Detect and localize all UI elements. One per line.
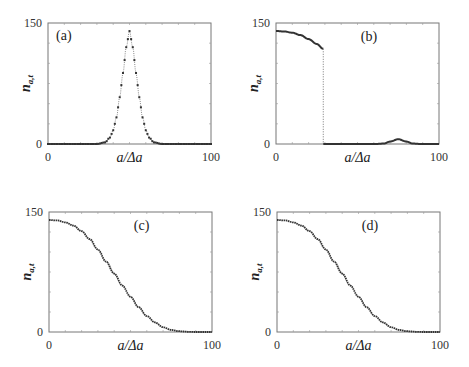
y-tick-0: 0 [36, 137, 42, 151]
data-curve [323, 139, 439, 144]
y-tick-150: 150 [25, 205, 43, 219]
axes-frame [49, 212, 212, 332]
x-axis-label: a/Δa [117, 338, 143, 353]
y-tick-0: 0 [264, 137, 270, 151]
x-tick-0: 0 [273, 150, 279, 164]
data-curve [276, 31, 323, 49]
x-tick-0: 0 [46, 338, 52, 352]
x-axis-label: a/Δa [116, 150, 142, 165]
y-tick-150: 150 [253, 205, 271, 219]
panel-b: 01500100a/Δana,t(b) [246, 16, 448, 165]
panel-label: (d) [362, 218, 379, 234]
x-tick-100: 100 [203, 338, 221, 352]
data-curve [277, 220, 440, 332]
panel-c: 01500100a/Δana,t(c) [19, 205, 221, 353]
x-tick-0: 0 [45, 150, 51, 164]
data-curve [48, 31, 211, 144]
figure: 01500100a/Δana,t(a)01500100a/Δana,t(b)01… [0, 0, 469, 367]
y-axis-label: na,t [18, 74, 35, 92]
x-axis-label: a/Δa [345, 338, 371, 353]
panel-label: (c) [134, 218, 150, 234]
panel-label: (b) [361, 29, 378, 45]
x-axis-label: a/Δa [344, 150, 370, 165]
x-tick-100: 100 [202, 150, 220, 164]
axes-frame [48, 23, 211, 144]
y-tick-150: 150 [24, 16, 42, 30]
y-tick-0: 0 [37, 325, 43, 339]
panel-a: 01500100a/Δana,t(a) [18, 16, 220, 165]
panel-label: (a) [56, 28, 72, 44]
y-axis-label: na,t [247, 263, 264, 281]
y-axis-label: na,t [19, 263, 36, 281]
panel-d: 01500100a/Δana,t(d) [247, 205, 449, 353]
x-tick-100: 100 [431, 338, 449, 352]
x-tick-100: 100 [430, 150, 448, 164]
axes-frame [277, 212, 440, 332]
y-axis-label: na,t [246, 74, 263, 92]
axes-frame [276, 23, 439, 144]
x-tick-0: 0 [274, 338, 280, 352]
y-tick-0: 0 [265, 325, 271, 339]
data-curve [49, 220, 212, 332]
y-tick-150: 150 [252, 16, 270, 30]
